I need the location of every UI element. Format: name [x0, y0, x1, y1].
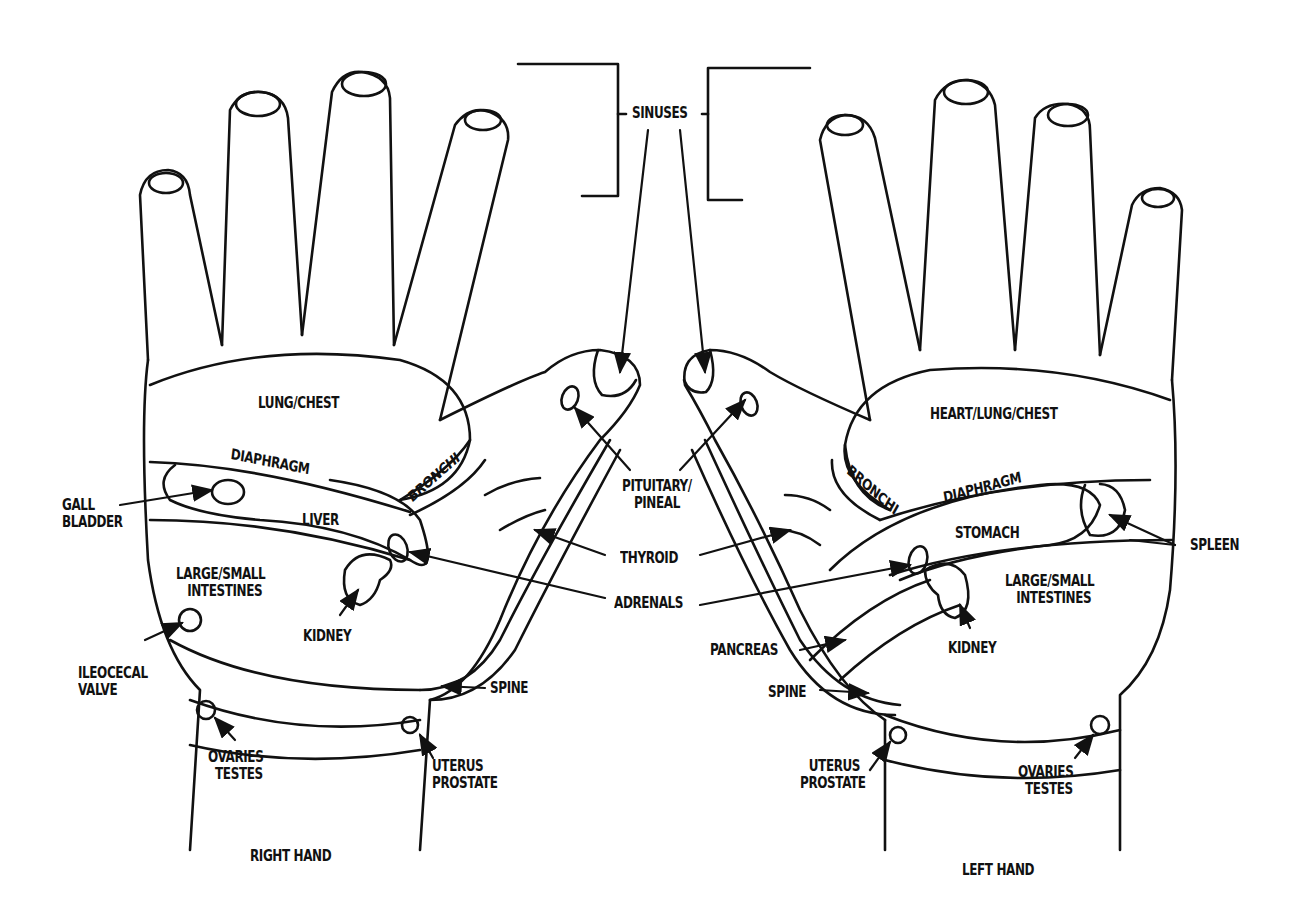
label-r-ov-line2: TESTES	[209, 765, 263, 783]
label-l-int-line2: INTESTINES	[1008, 589, 1091, 607]
label-right-kidney: KIDNEY	[303, 628, 351, 645]
label-right-spine: SPINE	[490, 680, 528, 697]
label-pituitary-line2: PINEAL	[634, 494, 680, 512]
label-right-uterus: UTERUSPROSTATE	[432, 758, 498, 792]
label-l-ut-line2: PROSTATE	[800, 774, 866, 792]
label-right-intestines: LARGE/SMALLINTESTINES	[176, 566, 265, 600]
label-right-ileocecal: ILEOCECALVALVE	[78, 665, 148, 699]
sinus-brackets	[518, 64, 810, 200]
label-pituitary-line1: PITUITARY/	[622, 477, 692, 495]
label-l-int-line1: LARGE/SMALL	[1005, 572, 1094, 590]
caption-right-hand: RIGHT HAND	[250, 848, 331, 865]
label-sinuses: SINUSES	[632, 105, 688, 122]
label-r-ut-line1: UTERUS	[432, 757, 483, 775]
label-left-uterus: UTERUSPROSTATE	[800, 758, 866, 792]
label-right-gall-bladder: GALLBLADDER	[62, 497, 123, 531]
caption-left-hand: LEFT HAND	[962, 862, 1034, 879]
label-left-spine: SPINE	[768, 684, 806, 701]
label-l-ov-line1: OVARIES	[1018, 763, 1073, 781]
label-r-ut-line2: PROSTATE	[432, 774, 498, 792]
label-right-lung-chest: LUNG/CHEST	[258, 395, 339, 412]
label-l-ov-line2: TESTES	[1019, 780, 1073, 798]
label-r-int-line2: INTESTINES	[179, 582, 262, 600]
label-gall-line2: BLADDER	[62, 513, 123, 531]
label-ileo-line1: ILEOCECAL	[78, 664, 148, 682]
right-hand-outline	[140, 72, 640, 850]
label-left-ovaries: OVARIESTESTES	[1018, 764, 1073, 798]
label-thyroid: THYROID	[620, 550, 678, 567]
label-r-int-line1: LARGE/SMALL	[176, 565, 265, 583]
label-right-ovaries: OVARIESTESTES	[208, 749, 263, 783]
label-ileo-line2: VALVE	[78, 681, 117, 699]
label-gall-line1: GALL	[62, 496, 95, 514]
label-adrenals: ADRENALS	[614, 595, 683, 612]
label-left-stomach: STOMACH	[955, 525, 1019, 542]
label-pituitary-pineal: PITUITARY/PINEAL	[622, 478, 692, 512]
label-left-intestines: LARGE/SMALLINTESTINES	[1005, 573, 1094, 607]
left-hand-outline	[684, 80, 1182, 850]
label-right-liver: LIVER	[302, 512, 339, 529]
pointer-arrows	[120, 130, 1175, 770]
label-left-heart-lung-chest: HEART/LUNG/CHEST	[930, 406, 1058, 423]
label-l-ut-line1: UTERUS	[806, 757, 861, 775]
label-left-pancreas: PANCREAS	[710, 642, 778, 659]
label-r-ov-line1: OVARIES	[208, 748, 263, 766]
hand-reflexology-drawing	[0, 0, 1309, 920]
label-left-spleen: SPLEEN	[1190, 537, 1239, 554]
label-left-kidney: KIDNEY	[948, 640, 996, 657]
